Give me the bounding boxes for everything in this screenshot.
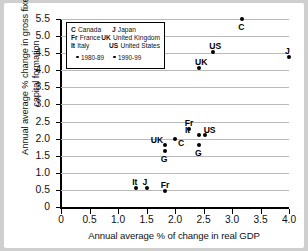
y-tick xyxy=(56,122,61,123)
legend-country: United States xyxy=(120,42,160,50)
y-tick-label: 4.0 xyxy=(20,64,50,75)
y-tick-label: 3.0 xyxy=(20,98,50,109)
legend-period: 1990-99 xyxy=(113,54,141,61)
legend-entry: JJapan xyxy=(112,26,136,34)
legend-country: United Kingdom xyxy=(113,34,160,42)
data-point-label: UK xyxy=(195,57,207,67)
data-point-label: G xyxy=(161,154,168,164)
gridline xyxy=(61,190,289,191)
legend-abbr: US xyxy=(109,42,118,50)
legend-country: Italy xyxy=(77,42,89,50)
gridline xyxy=(61,173,289,174)
legend-country: Japan xyxy=(118,26,136,34)
data-point-label: US xyxy=(209,41,221,51)
legend-row: FrFranceUKUnited Kingdom xyxy=(71,34,160,42)
data-point-label: US xyxy=(204,125,216,135)
legend-entry: UKUnited Kingdom xyxy=(101,34,160,42)
y-tick-label: 2.0 xyxy=(20,133,50,144)
legend-abbr: J xyxy=(112,26,116,34)
data-point-label: UK xyxy=(151,135,163,145)
data-point-label: It xyxy=(185,125,190,135)
y-tick xyxy=(56,87,61,88)
legend-entry: FrFrance xyxy=(71,34,101,42)
legend-period: 1980-89 xyxy=(76,54,104,61)
legend-country-rows: CCanadaJJapanFrFranceUKUnited KingdomItI… xyxy=(71,26,160,51)
legend-period-label: 1980-89 xyxy=(81,54,104,61)
legend-abbr: It xyxy=(71,42,75,50)
gridline xyxy=(61,104,289,105)
legend-row: CCanadaJJapan xyxy=(71,26,160,34)
y-tick-label: 5.0 xyxy=(20,30,50,41)
y-tick-label: 5.5 xyxy=(20,13,50,24)
gridline xyxy=(61,87,289,88)
legend-period-key: 1980-891990-99 xyxy=(71,54,160,61)
chart-figure: Annual average % change in gross fixed c… xyxy=(4,3,304,248)
y-tick xyxy=(56,19,61,20)
y-tick xyxy=(56,139,61,140)
legend-row: ItItalyUSUnited States xyxy=(71,42,160,50)
data-point-label: C xyxy=(178,138,184,148)
legend-entry: USUnited States xyxy=(109,42,160,50)
y-tick-label: 3.5 xyxy=(20,81,50,92)
x-tick-label: 4.0 xyxy=(272,214,306,225)
legend-entry: CCanada xyxy=(71,26,112,34)
data-point xyxy=(173,137,177,141)
legend-period-label: 1990-99 xyxy=(118,54,141,61)
legend-country: Canada xyxy=(78,26,101,34)
y-tick-label: 2.5 xyxy=(20,116,50,127)
y-tick xyxy=(56,53,61,54)
legend-dot-icon xyxy=(76,56,79,59)
y-tick xyxy=(56,156,61,157)
legend-abbr: Fr xyxy=(71,34,78,42)
x-axis-title: Annual average % of change in real GDP xyxy=(44,230,304,241)
y-tick-label: 0 xyxy=(20,201,50,212)
y-tick xyxy=(56,207,61,208)
y-tick xyxy=(56,104,61,105)
data-point-label: J xyxy=(285,46,290,56)
data-point-label: G xyxy=(195,148,202,158)
data-point-label: C xyxy=(238,22,244,32)
gridline xyxy=(61,156,289,157)
legend-abbr: UK xyxy=(101,34,111,42)
gridline xyxy=(61,70,289,71)
y-tick-label: 1.0 xyxy=(20,167,50,178)
y-tick xyxy=(56,70,61,71)
gridline xyxy=(61,122,289,123)
y-tick-label: 4.5 xyxy=(20,47,50,58)
legend-abbr: C xyxy=(71,26,76,34)
data-point-label: Fr xyxy=(161,180,170,190)
chart-legend: CCanadaJJapanFrFranceUKUnited KingdomItI… xyxy=(66,22,165,69)
y-tick xyxy=(56,36,61,37)
y-tick-label: 1.5 xyxy=(20,150,50,161)
legend-dot-icon xyxy=(113,56,116,59)
y-tick-label: 0.5 xyxy=(20,184,50,195)
legend-entry: ItItaly xyxy=(71,42,109,50)
y-tick xyxy=(56,190,61,191)
legend-country: France xyxy=(80,34,101,42)
gridline xyxy=(61,19,289,20)
data-point-label: It xyxy=(132,177,137,187)
y-tick xyxy=(56,173,61,174)
data-point-label: J xyxy=(143,177,148,187)
